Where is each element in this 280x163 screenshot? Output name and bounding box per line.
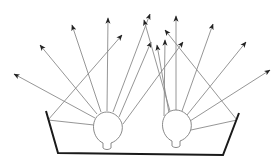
light-ray [48,35,122,120]
left-bulb [94,112,123,149]
light-ray [107,18,108,111]
reflector-tray [46,111,239,155]
light-ray [164,40,165,116]
light-ray [72,25,101,112]
light-ray [113,14,150,112]
right-bulb [163,110,192,147]
light-rays [14,14,270,130]
light-ray [190,70,270,121]
light-ray [191,120,237,130]
light-ray [182,24,213,111]
light-ray [48,120,94,125]
light-ray [157,45,169,113]
light-reflector-diagram [0,0,280,163]
